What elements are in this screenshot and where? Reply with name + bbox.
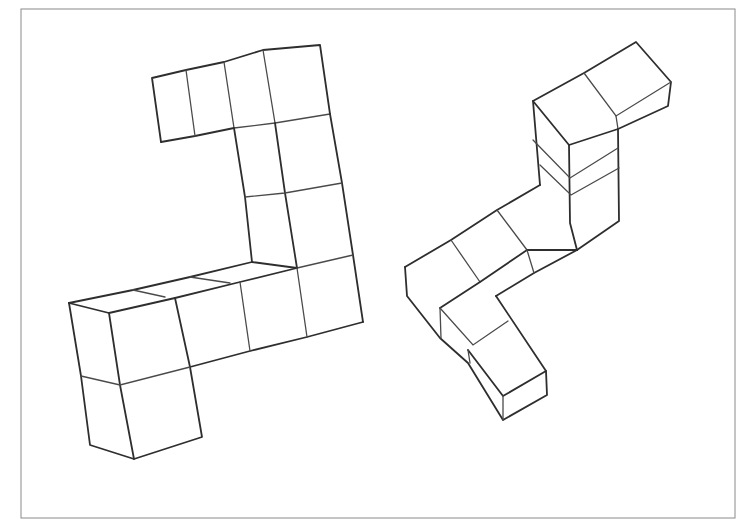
right-cube-structure (405, 42, 671, 420)
picture-frame (21, 9, 735, 518)
sketch-canvas (0, 0, 742, 522)
left-cube-structure (69, 45, 363, 459)
